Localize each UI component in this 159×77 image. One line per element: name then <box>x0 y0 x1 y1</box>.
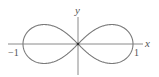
x-axis-label: x <box>144 37 150 49</box>
tick-label-neg1: −1 <box>8 47 19 58</box>
origin-point <box>77 43 80 46</box>
y-axis-label: y <box>74 4 80 16</box>
lemniscate-diagram: x y −1 1 <box>0 0 159 77</box>
tick-label-1: 1 <box>134 47 139 58</box>
